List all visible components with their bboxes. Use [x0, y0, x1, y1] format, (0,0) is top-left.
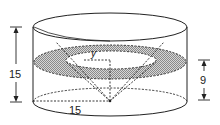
cylinder-bottom-front	[33, 102, 187, 116]
inner-radius-label: y	[90, 48, 97, 59]
height-dimension	[10, 27, 22, 102]
height-label: 15	[9, 68, 21, 80]
cylinder-top	[33, 13, 187, 41]
section-height-label: 9	[200, 74, 206, 86]
radius-label: 15	[69, 104, 81, 116]
cylinder-diagram: y 15 15 9	[0, 0, 220, 125]
